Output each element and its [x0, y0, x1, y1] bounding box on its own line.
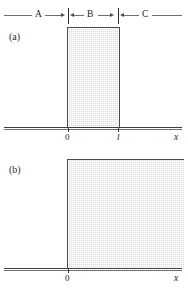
barrier-left-tickbar	[68, 8, 69, 24]
panel-a-barrier-region	[67, 27, 120, 129]
region-b-leader-left	[74, 15, 84, 16]
panel-b-tag: (b)	[9, 165, 21, 175]
panel-a-x-axis-label: x	[174, 133, 178, 143]
region-b-leader-right	[98, 15, 110, 16]
panel-a-tick-label-0: 0	[65, 133, 70, 142]
region-a-arrowhead-right	[61, 13, 65, 17]
physics-potential-figure: A B C (a) 0 l x (b)	[0, 0, 188, 294]
region-b-arrowhead-right	[110, 13, 114, 17]
panel-a-tag: (a)	[9, 32, 20, 42]
panel-b-x-axis	[4, 268, 182, 271]
region-a-leader-left	[4, 15, 32, 16]
region-a-label: A	[35, 10, 42, 20]
region-c-label: C	[142, 10, 148, 20]
panel-a-x-axis	[4, 127, 182, 130]
barrier-right-tickbar	[118, 8, 119, 24]
panel-b-tick-label-0: 0	[65, 274, 70, 283]
region-c-leader-left	[124, 15, 139, 16]
panel-b-step-region	[67, 159, 184, 270]
region-a-leader-right	[45, 15, 61, 16]
region-c-leader-right	[152, 15, 182, 16]
panel-b-x-axis-label: x	[174, 274, 178, 284]
region-b-label: B	[87, 10, 93, 20]
panel-a-tick-label-l: l	[117, 133, 120, 142]
